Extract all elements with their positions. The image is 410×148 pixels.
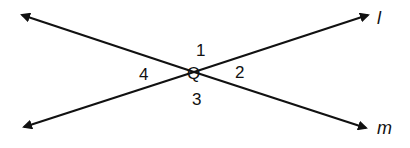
intersecting-lines-diagram: Q 1 2 3 4 l m <box>0 0 410 148</box>
line-l-ray <box>194 15 368 72</box>
intersection-label: Q <box>187 64 200 83</box>
angle-label-1: 1 <box>196 41 205 60</box>
line-label-m: m <box>377 118 392 138</box>
angle-label-3: 3 <box>192 90 201 109</box>
angle-label-4: 4 <box>139 65 148 84</box>
line-m-ray <box>194 72 366 128</box>
angle-label-2: 2 <box>235 63 244 82</box>
diagram-canvas: Q 1 2 3 4 l m <box>0 0 410 148</box>
line-l <box>24 72 194 127</box>
line-label-l: l <box>377 8 382 28</box>
line-m <box>22 15 194 72</box>
